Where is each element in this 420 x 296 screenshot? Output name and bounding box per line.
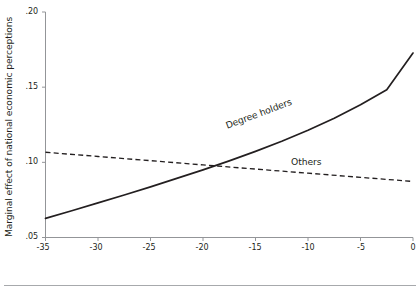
- plot-canvas: [0, 0, 420, 296]
- x-tick-marks: [46, 238, 414, 242]
- y-tick-marks: [42, 12, 46, 238]
- chart-figure: Marginal effect of national economic per…: [0, 0, 420, 296]
- series-line-others: [46, 152, 414, 181]
- footer-divider: [4, 285, 416, 286]
- series-line-degree-holders: [46, 53, 414, 218]
- annotation-others: Others: [291, 156, 322, 167]
